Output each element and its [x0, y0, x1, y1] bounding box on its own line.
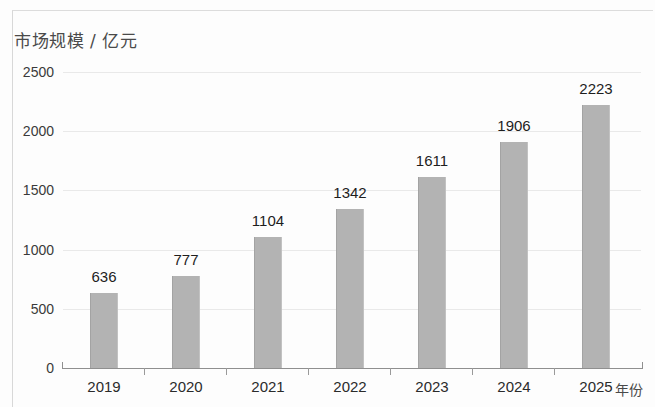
bar-value-2020: 777 — [173, 251, 198, 268]
bar-2023[interactable] — [418, 177, 446, 368]
bar-2019[interactable] — [90, 293, 118, 368]
x-axis-tick — [554, 368, 555, 375]
x-tick-label-2023: 2023 — [415, 378, 448, 395]
x-tick-label-2022: 2022 — [333, 378, 366, 395]
x-axis-tick — [472, 368, 473, 375]
y-tick-label-500: 500 — [31, 301, 54, 317]
bar-2021[interactable] — [254, 237, 282, 368]
x-tick-label-2020: 2020 — [169, 378, 202, 395]
bar-2024[interactable] — [500, 142, 528, 368]
y-axis-tick-labels: 2500 2000 1500 1000 500 0 — [0, 72, 54, 368]
bar-value-2024: 1906 — [497, 117, 530, 134]
bar-2025[interactable] — [582, 105, 610, 368]
gridline-2500 — [63, 72, 641, 73]
x-axis-tick — [308, 368, 309, 375]
bar-value-2025: 2223 — [579, 80, 612, 97]
gridline-2000 — [63, 131, 641, 132]
x-axis-tick — [144, 368, 145, 375]
chart-title: 市场规模 / 亿元 — [14, 27, 137, 52]
x-tick-label-2025: 2025 — [579, 378, 612, 395]
plot-area: 636 777 1104 1342 1611 1906 2223 — [63, 72, 641, 368]
x-axis-line — [62, 368, 642, 369]
bar-2020[interactable] — [172, 276, 200, 368]
bar-value-2019: 636 — [91, 268, 116, 285]
y-tick-label-1500: 1500 — [23, 182, 54, 198]
bar-2022[interactable] — [336, 209, 364, 368]
bar-value-2022: 1342 — [333, 184, 366, 201]
bar-chart: 市场规模 / 亿元 2500 2000 1500 1000 500 0 — [0, 0, 655, 407]
x-tick-label-2021: 2021 — [251, 378, 284, 395]
x-tick-label-2019: 2019 — [87, 378, 120, 395]
y-tick-label-0: 0 — [46, 360, 54, 376]
x-axis-tick — [226, 368, 227, 375]
x-axis-tick — [390, 368, 391, 375]
bar-value-2023: 1611 — [416, 152, 448, 169]
x-tick-label-2024: 2024 — [497, 378, 530, 395]
x-axis-title: 年份 — [615, 379, 643, 399]
x-axis-left-cap — [62, 362, 63, 369]
y-tick-label-2000: 2000 — [23, 123, 54, 139]
y-tick-label-2500: 2500 — [23, 64, 54, 80]
bar-value-2021: 1104 — [252, 212, 284, 229]
y-tick-label-1000: 1000 — [23, 242, 54, 258]
x-axis-right-cap — [642, 362, 643, 369]
